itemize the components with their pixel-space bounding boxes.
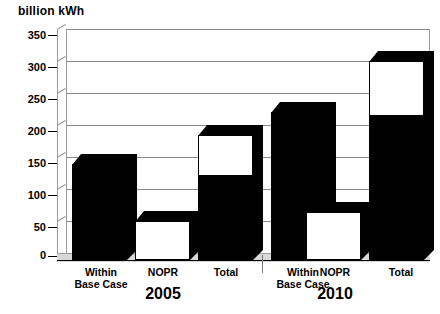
y-tick-mark-200 <box>48 131 57 132</box>
y-tick-label-0: 0 <box>12 249 46 261</box>
category-label-2005-within-base-case: Within Base Case <box>62 266 140 290</box>
bar-segment-black <box>72 164 127 260</box>
y-tick-mark-50 <box>48 227 57 228</box>
bar-2005-nopr <box>135 221 190 260</box>
gridline-350 <box>66 29 430 30</box>
bar-chart: billion kWh 350 300 250 200 150 100 50 0 <box>0 0 440 314</box>
y-tick-label-150: 150 <box>12 157 46 169</box>
bar-segment-white <box>306 212 361 260</box>
y-axis-title: billion kWh <box>18 4 84 18</box>
group-label-2005: 2005 <box>130 285 196 303</box>
y-tick-label-300: 300 <box>12 61 46 73</box>
bar-2010-nopr <box>306 212 361 260</box>
category-label-text: NOPR <box>320 266 350 278</box>
grid-riser-100 <box>57 184 66 190</box>
grid-riser-50 <box>57 216 66 222</box>
group-label-text: 2010 <box>317 285 353 302</box>
group-label-2010: 2010 <box>302 285 368 303</box>
category-label-text: NOPR <box>148 266 178 278</box>
category-label-line2: Base Case <box>74 278 127 290</box>
category-label-text: Total <box>389 266 413 278</box>
y-tick-label-250: 250 <box>12 93 46 105</box>
category-label-line1: Within <box>85 266 117 278</box>
y-tick-mark-300 <box>48 67 57 68</box>
y-tick-label-200: 200 <box>12 125 46 137</box>
grid-riser-250 <box>57 88 66 94</box>
y-tick-mark-100 <box>48 195 57 196</box>
y-tick-label-50: 50 <box>12 221 46 233</box>
grid-riser-300 <box>57 56 66 62</box>
category-label-text: Total <box>214 266 238 278</box>
category-label-2005-nopr: NOPR <box>130 266 196 278</box>
y-tick-mark-0 <box>48 256 57 257</box>
grid-riser-150 <box>57 152 66 158</box>
category-label-2010-total: Total <box>368 266 434 278</box>
group-label-text: 2005 <box>145 285 181 302</box>
y-axis-spine <box>57 29 58 260</box>
category-label-2010-nopr: NOPR <box>302 266 368 278</box>
y-axis-back-spine <box>66 29 67 253</box>
x-axis-baseline <box>57 260 430 261</box>
bar-2005-total <box>198 135 253 260</box>
bar-segment-black <box>369 115 424 260</box>
y-tick-label-350: 350 <box>12 29 46 41</box>
y-tick-label-100: 100 <box>12 189 46 201</box>
grid-riser-200 <box>57 120 66 126</box>
bar-side-face <box>253 125 263 260</box>
bar-segment-black <box>198 175 253 260</box>
bar-2010-total <box>369 61 424 260</box>
y-tick-mark-150 <box>48 163 57 164</box>
y-tick-mark-350 <box>48 35 57 36</box>
grid-riser-350 <box>57 24 66 30</box>
group-separator <box>262 255 263 273</box>
y-tick-mark-250 <box>48 99 57 100</box>
bar-2005-within-base-case <box>72 164 127 260</box>
bar-segment-white <box>135 221 190 260</box>
category-label-2005-total: Total <box>193 266 259 278</box>
bar-side-face <box>424 51 434 260</box>
